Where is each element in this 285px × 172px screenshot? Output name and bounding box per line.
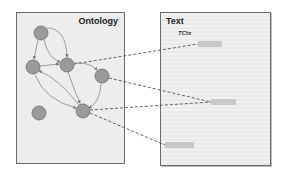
- node-icon: [76, 104, 90, 118]
- node-icon: [95, 69, 109, 83]
- diagram-graphics: [0, 0, 285, 172]
- node-icon: [26, 60, 40, 74]
- mapping-lines: [74, 44, 211, 145]
- node-icon: [60, 58, 74, 72]
- ontology-nodes: [26, 26, 109, 120]
- node-icon: [34, 26, 48, 40]
- node-icon: [32, 106, 46, 120]
